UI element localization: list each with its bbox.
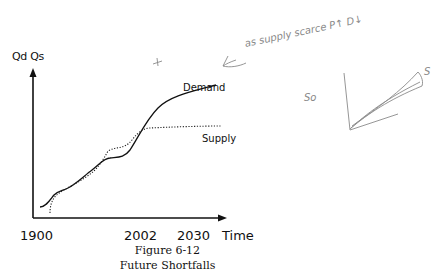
figure-title: Future Shortfalls bbox=[0, 259, 387, 272]
sketch-curve-s1 bbox=[351, 72, 423, 128]
x-axis-arrow-icon bbox=[218, 215, 227, 222]
pencil-mark-icon bbox=[153, 58, 162, 66]
handwritten-s1: S bbox=[424, 66, 430, 77]
x-tick-2002: 2002 bbox=[124, 228, 157, 243]
y-axis-label: Qd Qs bbox=[12, 50, 44, 63]
supply-label: Supply bbox=[202, 133, 236, 144]
y-axis-arrow-icon bbox=[30, 68, 37, 77]
handwritten-annotations bbox=[153, 56, 423, 130]
sketch-curve-s0 bbox=[350, 82, 420, 129]
demand-label: Demand bbox=[183, 82, 225, 93]
figure-number: Figure 6-12 bbox=[0, 244, 387, 257]
x-tick-2030: 2030 bbox=[177, 228, 210, 243]
handwritten-s0: So bbox=[304, 92, 316, 103]
x-axis-label: Time bbox=[222, 228, 254, 243]
x-tick-1900: 1900 bbox=[20, 228, 53, 243]
pencil-arrow-left-icon bbox=[223, 56, 246, 67]
